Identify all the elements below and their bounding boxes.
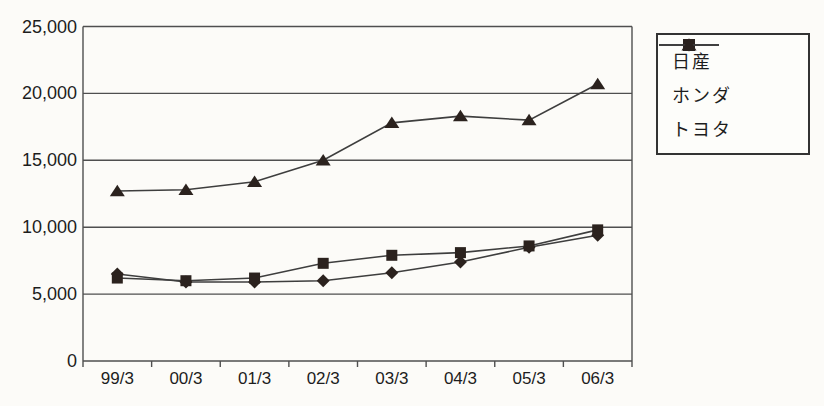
triangle-marker-icon xyxy=(247,175,262,187)
series-toyota xyxy=(110,78,605,197)
diamond-marker-icon xyxy=(317,274,330,287)
square-marker-icon xyxy=(249,273,260,284)
triangle-marker-icon xyxy=(453,110,468,122)
y-tick-label: 25,000 xyxy=(22,17,77,37)
legend-item-label: ホンダ xyxy=(672,81,732,107)
line-chart: 05,00010,00015,00020,00025,000 99/300/30… xyxy=(0,0,824,406)
legend-item-label: トヨタ xyxy=(672,115,732,141)
x-tick-label: 02/3 xyxy=(307,369,340,388)
square-marker-icon xyxy=(112,273,123,284)
gridlines xyxy=(83,27,632,362)
y-tick-label: 10,000 xyxy=(22,217,77,237)
square-marker-icon xyxy=(386,250,397,261)
x-tick-label: 05/3 xyxy=(513,369,546,388)
x-tick-label: 00/3 xyxy=(169,369,202,388)
chart-legend: 日産ホンダトヨタ xyxy=(656,33,810,155)
square-marker-icon xyxy=(455,247,466,258)
x-tick-label: 99/3 xyxy=(101,369,134,388)
y-tick-label: 5,000 xyxy=(32,284,77,304)
legend-item-toyota: トヨタ xyxy=(672,115,804,141)
axes-and-ticks xyxy=(83,27,632,368)
y-tick-label: 0 xyxy=(67,351,77,371)
legend-item-honda: ホンダ xyxy=(672,81,804,107)
y-tick-label: 20,000 xyxy=(22,83,77,103)
triangle-marker-icon xyxy=(590,78,605,90)
x-tick-label: 03/3 xyxy=(375,369,408,388)
y-axis-labels: 05,00010,00015,00020,00025,000 xyxy=(22,17,77,372)
square-marker-icon xyxy=(592,224,603,235)
square-marker-icon xyxy=(318,258,329,269)
legend-key-sample xyxy=(658,35,720,55)
data-series xyxy=(110,78,605,289)
x-tick-label: 01/3 xyxy=(238,369,271,388)
x-tick-label: 06/3 xyxy=(581,369,614,388)
square-marker-icon xyxy=(524,240,535,251)
square-marker-icon xyxy=(180,275,191,286)
x-axis-labels: 99/300/301/302/303/304/305/306/3 xyxy=(101,369,614,388)
y-tick-label: 15,000 xyxy=(22,150,77,170)
x-tick-label: 04/3 xyxy=(444,369,477,388)
diamond-marker-icon xyxy=(385,266,398,279)
